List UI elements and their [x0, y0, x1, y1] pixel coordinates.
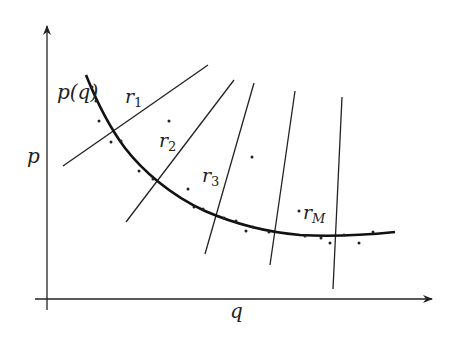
pq-diagram: p(q) p q r1 r2 r3 rM — [0, 0, 452, 338]
ray-label-r2: r2 — [159, 129, 176, 154]
ray-label-r1: r1 — [125, 85, 142, 110]
ray-rM — [333, 97, 342, 289]
x-axis-label: q — [230, 299, 243, 323]
y-axis-label: p — [27, 144, 40, 168]
curve-label: p(q) — [57, 80, 98, 104]
ray-r4 — [270, 91, 295, 265]
ray-label-rM: rM — [303, 201, 326, 226]
ray-label-r3: r3 — [202, 164, 219, 189]
